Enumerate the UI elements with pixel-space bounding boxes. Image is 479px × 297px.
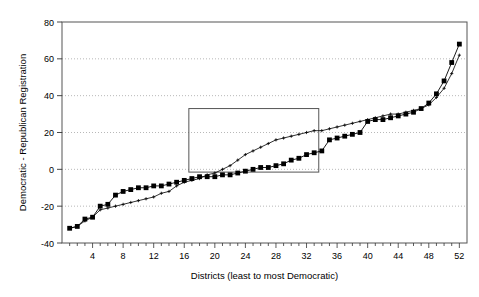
series-squares-marker — [243, 169, 248, 174]
series-squares-marker — [98, 204, 103, 209]
series-squares-marker — [350, 132, 355, 137]
series-squares-marker — [358, 130, 363, 135]
series-squares-marker — [403, 112, 408, 117]
series-squares-marker — [136, 185, 141, 190]
x-tick-label: 20 — [210, 251, 220, 261]
x-tick-label: 12 — [149, 251, 159, 261]
y-axis-title: Democratic - Republican Registration — [17, 54, 28, 211]
series-squares-marker — [174, 180, 179, 185]
series-squares-marker — [90, 215, 95, 220]
series-squares-marker — [434, 91, 439, 96]
series-squares-marker — [159, 184, 164, 189]
x-tick-label: 48 — [424, 251, 434, 261]
scatter-line-chart: 481216202428323640444852-40-20020406080D… — [0, 0, 479, 297]
series-squares-marker — [396, 114, 401, 119]
series-squares-marker — [449, 60, 454, 65]
series-squares-marker — [373, 117, 378, 122]
y-tick-label: 60 — [44, 54, 54, 64]
series-squares-marker — [121, 189, 126, 194]
y-tick-label: -20 — [41, 202, 54, 212]
series-squares-marker — [151, 184, 156, 189]
y-tick-label: -40 — [41, 239, 54, 249]
series-squares-marker — [419, 106, 424, 111]
series-squares-marker — [335, 136, 340, 141]
series-squares-marker — [411, 110, 416, 115]
series-line-path — [70, 55, 460, 228]
series-squares-marker — [258, 165, 263, 170]
x-tick-label: 4 — [90, 251, 95, 261]
series-squares-marker — [266, 165, 271, 170]
series-squares-marker — [426, 101, 431, 106]
series-squares-marker — [304, 152, 309, 157]
series-squares-marker — [457, 42, 462, 47]
y-tick-label: 20 — [44, 128, 54, 138]
series-squares-marker — [75, 224, 80, 229]
series-squares-marker — [105, 202, 110, 207]
series-squares-marker — [167, 182, 172, 187]
y-tick-label: 0 — [49, 165, 54, 175]
series-squares-marker — [235, 171, 240, 176]
series-squares-marker — [128, 187, 133, 192]
series-squares-marker — [274, 163, 279, 168]
series-squares-marker — [251, 167, 256, 172]
x-tick-label: 36 — [332, 251, 342, 261]
series-squares-marker — [228, 172, 233, 177]
x-axis-title: Districts (least to most Democratic) — [191, 270, 338, 281]
x-tick-label: 16 — [179, 251, 189, 261]
x-tick-label: 28 — [271, 251, 281, 261]
series-squares-marker — [381, 117, 386, 122]
series-squares-marker — [83, 217, 88, 222]
series-squares-marker — [296, 156, 301, 161]
x-tick-label: 24 — [240, 251, 250, 261]
series-squares-marker — [220, 172, 225, 177]
highlight-box — [189, 109, 319, 173]
x-tick-label: 52 — [454, 251, 464, 261]
series-squares-marker — [319, 149, 324, 154]
series-squares-marker — [442, 79, 447, 84]
series-squares-marker — [289, 158, 294, 163]
series-squares-marker — [197, 174, 202, 179]
series-squares-marker — [312, 150, 317, 155]
series-squares-marker — [342, 134, 347, 139]
x-tick-label: 32 — [302, 251, 312, 261]
x-tick-label: 44 — [393, 251, 403, 261]
series-squares-marker — [281, 161, 286, 166]
series-squares-path — [70, 44, 460, 228]
series-squares-marker — [388, 115, 393, 120]
series-squares-marker — [365, 119, 370, 124]
x-tick-label: 8 — [121, 251, 126, 261]
series-squares-marker — [182, 178, 187, 183]
series-squares-marker — [190, 176, 195, 181]
x-tick-label: 40 — [363, 251, 373, 261]
series-squares-marker — [212, 174, 217, 179]
chart-container: 481216202428323640444852-40-20020406080D… — [0, 0, 479, 297]
series-squares-marker — [205, 174, 210, 179]
series-squares-marker — [67, 226, 72, 231]
series-squares-marker — [113, 193, 118, 198]
y-tick-label: 40 — [44, 91, 54, 101]
y-tick-label: 80 — [44, 18, 54, 28]
series-squares-marker — [327, 137, 332, 142]
series-squares-marker — [144, 185, 149, 190]
